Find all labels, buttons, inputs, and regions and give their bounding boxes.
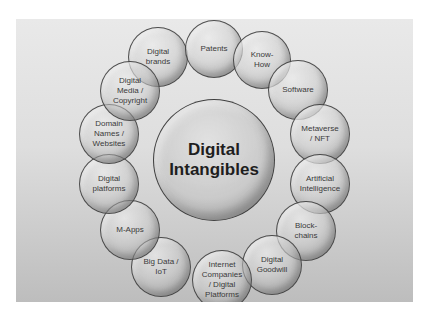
- bubble-label: Digital Media / Copyright: [109, 76, 151, 106]
- bubble-label: M-Apps: [112, 225, 148, 235]
- bubble-label: Block- chains: [290, 221, 321, 241]
- bubble-label: Artificial Intelligence: [296, 174, 344, 194]
- bubble-label: Big Data / IoT: [139, 257, 182, 277]
- center-bubble: Digital Intangibles: [153, 99, 275, 221]
- bubble-label: Domain Names / Websites: [89, 119, 130, 149]
- bubble-label: Know- How: [247, 50, 278, 70]
- bubble-digital-media-copyright: Digital Media / Copyright: [100, 61, 160, 121]
- bubble-label: Patents: [196, 44, 231, 54]
- page: Digital brandsPatentsKnow- HowSoftwareMe…: [0, 0, 428, 317]
- bubble-label: Digital platforms: [89, 174, 130, 194]
- bubble-label: Software: [278, 85, 318, 95]
- bubble-label: Internet Companies / Digital Platforms: [198, 260, 246, 300]
- center-label: Digital Intangibles: [165, 140, 263, 180]
- bubble-internet-companies: Internet Companies / Digital Platforms: [192, 250, 252, 302]
- bubble-label: Digital Goodwill: [253, 255, 292, 275]
- diagram-slide: Digital brandsPatentsKnow- HowSoftwareMe…: [16, 19, 413, 302]
- bubble-label: Digital brands: [142, 47, 174, 67]
- bubble-label: Metaverse / NFT: [297, 124, 342, 144]
